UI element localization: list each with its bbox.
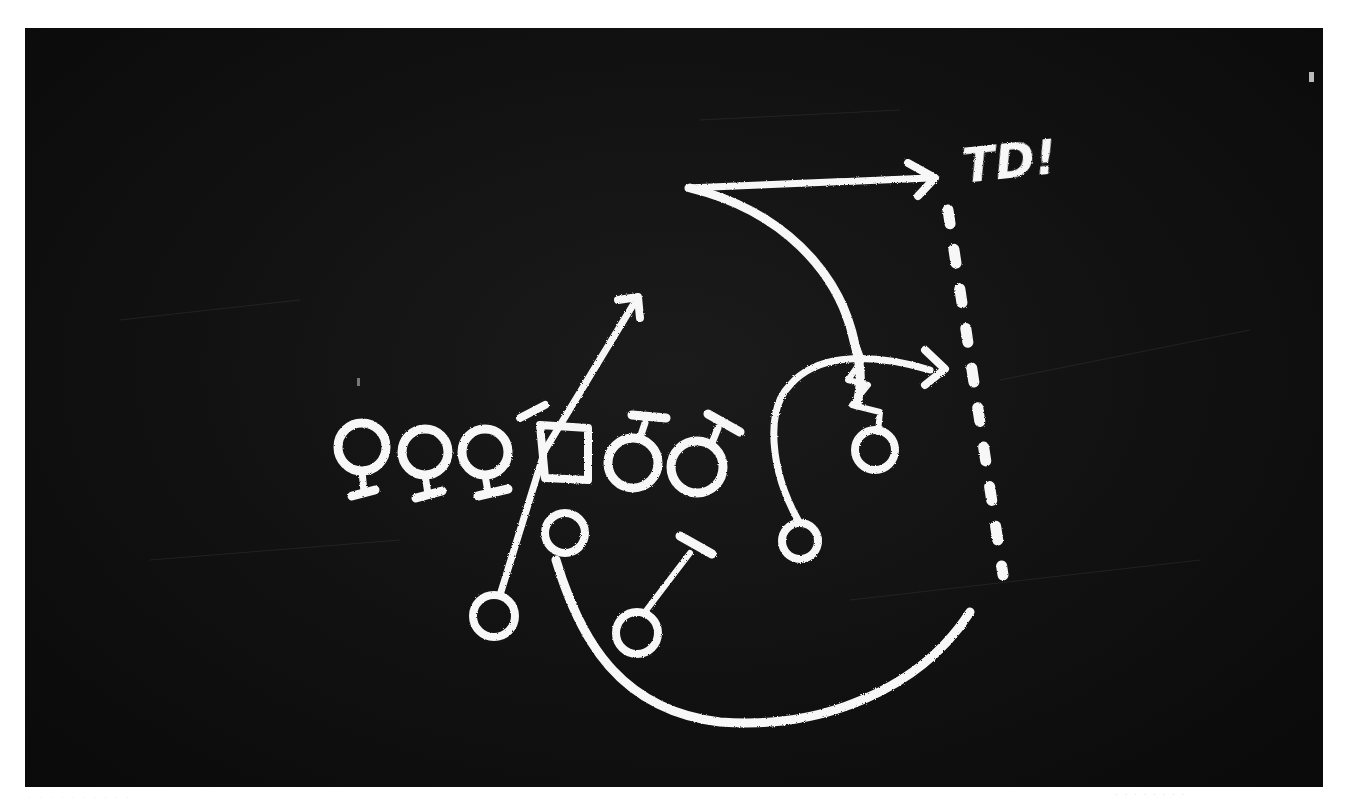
qb-circle [545, 513, 585, 553]
deep-curve-route [690, 188, 860, 405]
chalk-speck [357, 378, 360, 386]
lineman-2 [402, 429, 448, 498]
td-label: TD! [960, 128, 1060, 194]
play-diagram: TD! [25, 28, 1323, 787]
end-zone-dashed-line [948, 210, 1003, 575]
lineman-1 [338, 423, 386, 496]
deep-route-to-td [688, 178, 930, 188]
caption-bottom-left: · · · · · · · · · · [28, 793, 428, 803]
chalk-smudges [120, 110, 1250, 600]
chalkboard: TD! [25, 28, 1323, 787]
wide-receiver-circle [855, 430, 895, 470]
right-back-circle [616, 612, 658, 654]
lineman-3 [462, 429, 508, 496]
block-route [645, 553, 690, 612]
lineman-5 [608, 415, 666, 488]
center-square [520, 405, 588, 480]
block-mark [680, 536, 712, 554]
left-back-circle [473, 595, 515, 637]
chalk-speck [1309, 72, 1314, 82]
lineman-6 [671, 414, 740, 493]
slot-receiver-circle [782, 523, 818, 559]
caption-bottom-right: · · · · · · · · [1115, 789, 1325, 801]
